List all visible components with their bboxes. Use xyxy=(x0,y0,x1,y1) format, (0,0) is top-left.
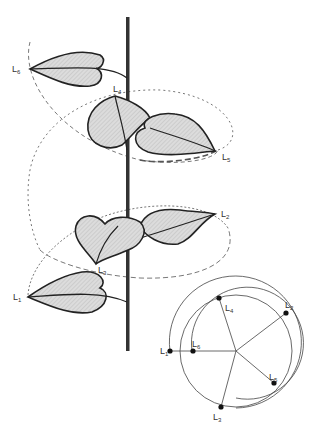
leaf-l2 xyxy=(140,210,215,245)
label-l6: L6 xyxy=(12,64,21,75)
leaf-l5 xyxy=(136,114,215,155)
svg-text:L1: L1 xyxy=(160,346,169,357)
svg-text:L6: L6 xyxy=(192,339,201,350)
label-l5: L5 xyxy=(222,152,231,163)
phyllotaxis-diagram xyxy=(169,276,303,408)
label-l2: L2 xyxy=(221,209,230,220)
label-l3: L3 xyxy=(98,265,107,276)
phyllotaxis-illustration: L6 L4 L5 L2 L3 L1 L4 L2 L6 L1 L5 L3 xyxy=(0,0,309,431)
leaf-l1 xyxy=(28,272,127,313)
svg-text:L4: L4 xyxy=(225,303,234,314)
diagram-labels: L4 L2 L6 L1 L5 L3 xyxy=(160,300,294,423)
svg-text:L2: L2 xyxy=(285,300,294,311)
leaf-l6 xyxy=(30,52,127,86)
stem xyxy=(126,17,130,351)
svg-text:L5: L5 xyxy=(269,372,278,383)
svg-text:L3: L3 xyxy=(213,412,222,423)
leaf-l3 xyxy=(75,216,144,264)
label-l1: L1 xyxy=(13,292,22,303)
label-l4: L4 xyxy=(113,84,122,95)
